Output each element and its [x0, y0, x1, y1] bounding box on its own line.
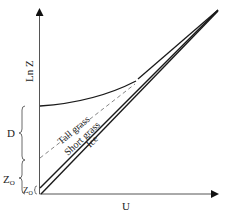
y-axis-label: Ln Z [23, 60, 35, 82]
displacement-bracket [19, 106, 25, 160]
wind-profile-diagram: Ln Z U Tall grass Short grass Ice D ZO Z… [0, 0, 237, 213]
tall-grass-profile-line [138, 10, 218, 79]
x-axis-label: U [122, 200, 130, 212]
tall-grass-profile-curve [40, 81, 136, 106]
short-grass-line [40, 10, 218, 188]
roughness-ice-label: ZO [23, 185, 34, 196]
roughness-ice-bracket [34, 186, 37, 194]
displacement-label: D [7, 127, 15, 139]
roughness-grass-label: ZO [3, 173, 15, 187]
